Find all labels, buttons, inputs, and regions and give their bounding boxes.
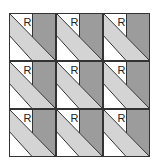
- tile-label: R: [24, 16, 32, 28]
- tile: R: [9, 61, 56, 109]
- tile: R: [56, 109, 103, 157]
- tile: R: [103, 61, 150, 109]
- tile-label: R: [118, 16, 126, 28]
- tile-label: R: [118, 64, 126, 76]
- tile-label: R: [24, 64, 32, 76]
- tiling-pattern: RRRRRRRRR: [9, 13, 150, 157]
- tile: R: [9, 109, 56, 157]
- tile-label: R: [118, 112, 126, 124]
- tile-label: R: [71, 64, 79, 76]
- tile-grid: RRRRRRRRR: [9, 13, 150, 157]
- tile: R: [56, 61, 103, 109]
- tile-label: R: [71, 112, 79, 124]
- tile-label: R: [71, 16, 79, 28]
- tile: R: [56, 13, 103, 61]
- tile: R: [103, 13, 150, 61]
- tile: R: [9, 13, 56, 61]
- tile: R: [103, 109, 150, 157]
- tile-label: R: [24, 112, 32, 124]
